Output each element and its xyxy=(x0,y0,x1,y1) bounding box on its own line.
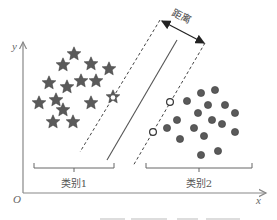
circle-marker xyxy=(176,135,183,142)
figure-caption-clipped xyxy=(100,216,240,220)
class2-circles xyxy=(163,86,238,158)
svm-diagram xyxy=(0,0,277,220)
circle-marker xyxy=(163,124,170,131)
star-icon xyxy=(46,115,60,128)
star-icon xyxy=(74,74,88,87)
circle-marker xyxy=(231,109,238,116)
circle-marker xyxy=(197,151,204,158)
circle-marker xyxy=(214,147,221,154)
class1-stars xyxy=(32,47,120,128)
star-icon xyxy=(66,115,80,128)
y-axis-label: y xyxy=(12,40,17,52)
category-label-2: 类别2 xyxy=(186,175,212,190)
star-icon xyxy=(102,62,116,75)
star-icon xyxy=(67,47,81,60)
circle-marker xyxy=(183,97,190,104)
brace-class2 xyxy=(146,163,252,172)
circle-marker xyxy=(208,116,215,123)
category-braces xyxy=(34,163,252,172)
star-icon xyxy=(84,57,98,70)
separating-hyperplane xyxy=(107,40,177,160)
circle-marker xyxy=(197,89,204,96)
circle-marker xyxy=(218,120,225,127)
support-vector-circle xyxy=(167,99,174,106)
circle-marker xyxy=(173,116,180,123)
star-icon xyxy=(49,93,63,106)
origin-label: O xyxy=(13,193,21,205)
circle-marker xyxy=(200,132,207,139)
support-vector-star-center xyxy=(111,95,116,100)
circle-marker xyxy=(204,101,211,108)
circle-marker xyxy=(221,101,228,108)
star-icon xyxy=(89,74,103,87)
x-axis-label: x xyxy=(256,194,261,206)
category-label-1: 类别1 xyxy=(61,175,87,190)
star-icon xyxy=(84,96,98,109)
circle-marker xyxy=(211,86,218,93)
star-icon xyxy=(32,96,46,109)
support-vector-circle xyxy=(150,129,157,136)
star-icon xyxy=(60,80,74,93)
circle-marker xyxy=(194,109,201,116)
circle-marker xyxy=(190,124,197,131)
star-icon xyxy=(56,58,70,71)
star-icon xyxy=(42,76,56,89)
brace-class1 xyxy=(34,163,114,172)
circle-marker xyxy=(231,128,238,135)
